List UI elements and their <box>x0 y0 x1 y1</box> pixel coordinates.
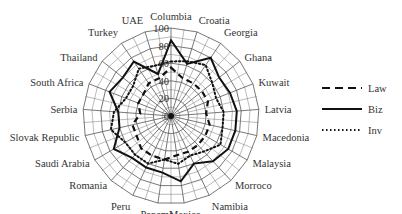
category-label: Panama <box>140 209 174 214</box>
category-label: Peru <box>111 201 131 212</box>
category-label: Georgia <box>224 27 258 38</box>
category-label: Croatia <box>199 15 230 26</box>
category-label: Mexico <box>169 209 201 214</box>
legend-label-inv: Inv <box>368 125 383 136</box>
category-label: Romania <box>69 180 107 191</box>
tick-label-60: 60 <box>159 58 170 69</box>
category-label: Columbia <box>150 11 192 22</box>
category-label: Latvia <box>265 104 292 115</box>
tick-label-100: 100 <box>153 23 169 34</box>
category-label: UAE <box>122 15 144 26</box>
radar-series <box>110 40 237 181</box>
category-label: Saudi Arabia <box>35 158 90 169</box>
category-label: Namibia <box>212 201 248 212</box>
category-label: Ghana <box>245 52 273 63</box>
tick-label-20: 20 <box>159 93 170 104</box>
category-label: South Africa <box>30 77 84 88</box>
radar-chart: 020406080100 ColumbiaCroatiaGeorgiaGhana… <box>0 0 402 214</box>
category-label: Macedonia <box>263 132 310 143</box>
tick-label-0: 0 <box>164 111 169 122</box>
spoke <box>171 61 240 116</box>
spoke-minor <box>85 96 154 112</box>
legend-label-biz: Biz <box>368 104 383 115</box>
category-label: Turkey <box>88 27 119 38</box>
category-label: Thailand <box>60 52 98 63</box>
tick-label-80: 80 <box>159 41 170 52</box>
category-label: Serbia <box>50 104 77 115</box>
category-label: Malaysia <box>252 158 291 169</box>
spoke-minor <box>179 37 210 100</box>
category-label: Morroco <box>235 180 272 191</box>
legend-label-law: Law <box>368 83 387 94</box>
category-label: Slovak Republic <box>10 132 80 143</box>
tick-label-40: 40 <box>159 76 170 87</box>
legend: LawBizInv <box>322 83 387 136</box>
category-label: Kuwait <box>259 77 290 88</box>
